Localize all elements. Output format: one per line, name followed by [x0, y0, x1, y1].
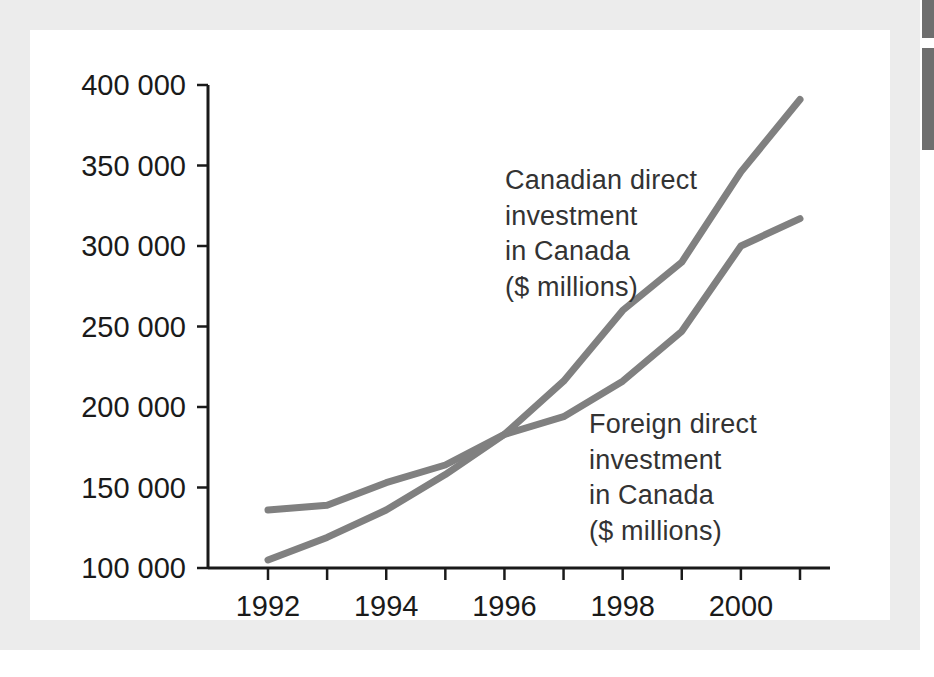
x-axis-tick-label: 1994 [354, 590, 419, 622]
y-axis-tick-label: 100 000 [81, 552, 186, 584]
y-axis-tick-label: 250 000 [81, 311, 186, 343]
figure-root: 100 000150 000200 000250 000300 000350 0… [0, 0, 934, 677]
x-axis-tick-label: 2000 [709, 590, 774, 622]
x-axis: 19921994199619982000 [208, 568, 830, 622]
x-axis-tick-label: 1996 [472, 590, 537, 622]
y-axis-tick-label: 200 000 [81, 391, 186, 423]
line-chart: 100 000150 000200 000250 000300 000350 0… [0, 0, 934, 677]
annotation-foreign-direct-investment: Foreign direct investment in Canada ($ m… [589, 407, 757, 550]
chart-canvas: 100 000150 000200 000250 000300 000350 0… [0, 0, 934, 677]
x-axis-tick-label: 1998 [590, 590, 655, 622]
y-axis-tick-label: 150 000 [81, 472, 186, 504]
y-axis: 100 000150 000200 000250 000300 000350 0… [81, 69, 208, 584]
y-axis-tick-label: 400 000 [81, 69, 186, 101]
annotation-canadian-direct-investment: Canadian direct investment in Canada ($ … [505, 163, 697, 306]
y-axis-tick-label: 350 000 [81, 150, 186, 182]
y-axis-tick-label: 300 000 [81, 230, 186, 262]
x-axis-tick-label: 1992 [236, 590, 301, 622]
